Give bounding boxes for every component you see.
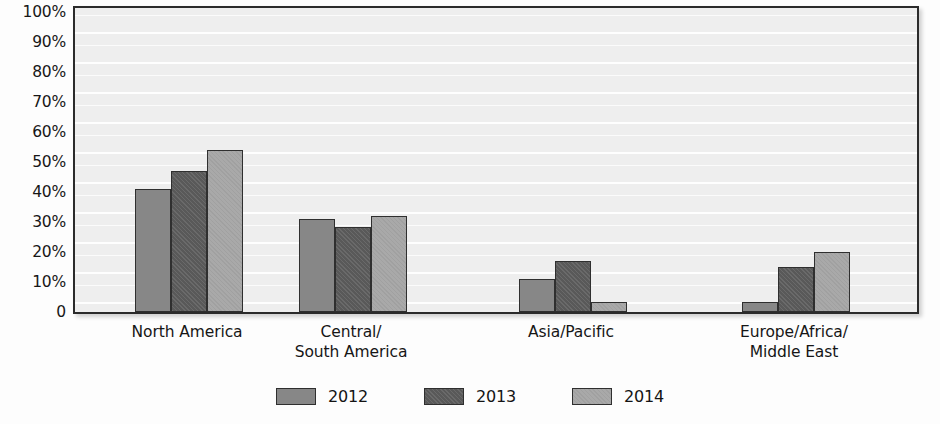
legend-item-2013[interactable]: 2013: [424, 387, 516, 406]
legend-label-2014: 2014: [624, 387, 664, 406]
bar-2014-1: [371, 216, 407, 312]
bar-2014-3: [814, 252, 850, 312]
y-axis-tick-30pct: 30%: [2, 215, 66, 231]
y-axis: 100%90%80%70%60%50%40%30%20%10%0: [0, 0, 72, 320]
x-axis-label-line: South America: [241, 342, 461, 362]
bar-2013-0: [171, 171, 207, 312]
bar-2013-1: [335, 227, 371, 313]
legend-swatch-2014: [572, 388, 612, 405]
x-axis-label-line: Asia/Pacific: [461, 322, 681, 342]
x-axis-label-line: Central/: [241, 322, 461, 342]
legend-item-2014[interactable]: 2014: [572, 387, 664, 406]
bar-2014-0: [207, 150, 243, 312]
y-axis-tick-70pct: 70%: [2, 95, 66, 111]
y-axis-tick-0: 0: [2, 305, 66, 321]
bar-2012-1: [299, 219, 335, 312]
x-axis-label-2: Asia/Pacific: [461, 322, 681, 342]
bars-layer: [75, 8, 917, 312]
legend-label-2012: 2012: [328, 387, 368, 406]
x-axis-label-3: Europe/Africa/Middle East: [684, 322, 904, 362]
bar-2012-0: [135, 189, 171, 312]
legend-label-2013: 2013: [476, 387, 516, 406]
x-axis-label-line: Middle East: [684, 342, 904, 362]
legend-swatch-2013: [424, 388, 464, 405]
bar-2013-2: [555, 261, 591, 312]
y-axis-tick-80pct: 80%: [2, 65, 66, 81]
y-axis-tick-60pct: 60%: [2, 125, 66, 141]
chart-legend: 201220132014: [0, 382, 940, 410]
x-axis-label-1: Central/South America: [241, 322, 461, 362]
y-axis-tick-10pct: 10%: [2, 275, 66, 291]
y-axis-tick-50pct: 50%: [2, 155, 66, 171]
x-axis-labels: North AmericaCentral/South AmericaAsia/P…: [73, 322, 919, 372]
y-axis-tick-40pct: 40%: [2, 185, 66, 201]
bar-chart: 100%90%80%70%60%50%40%30%20%10%0 North A…: [0, 0, 940, 424]
y-axis-tick-90pct: 90%: [2, 35, 66, 51]
y-axis-tick-100pct: 100%: [2, 5, 66, 21]
legend-item-2012[interactable]: 2012: [276, 387, 368, 406]
bar-2013-3: [778, 267, 814, 312]
x-axis-label-line: Europe/Africa/: [684, 322, 904, 342]
bar-2014-2: [591, 302, 627, 313]
plot-area: [73, 6, 919, 314]
legend-swatch-2012: [276, 388, 316, 405]
bar-2012-2: [519, 279, 555, 312]
y-axis-tick-20pct: 20%: [2, 245, 66, 261]
bar-2012-3: [742, 302, 778, 313]
